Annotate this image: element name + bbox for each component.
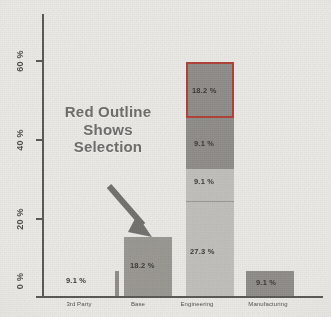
bar-label-base-1: 18.2 % (130, 261, 155, 270)
x-axis-label-base: Base (110, 301, 166, 307)
y-axis-label-0: 0 % (15, 265, 25, 297)
bar-label-engineering-4: 27.3 % (190, 247, 215, 256)
bar-3rd-party-segment-1[interactable] (115, 271, 119, 296)
bar-label-engineering-1: 18.2 % (192, 86, 217, 95)
y-axis-tick (36, 218, 43, 220)
y-axis-label-20: 20 % (15, 203, 25, 235)
bar-label-engineering-2: 9.1 % (194, 139, 214, 148)
callout-line-2: Shows (44, 121, 172, 139)
x-axis-label-manufacturing: Manufacturing (230, 301, 306, 307)
y-axis-tick (36, 296, 43, 298)
x-axis-label-3rd-party: 3rd Party (50, 301, 108, 307)
bar-label-engineering-3: 9.1 % (194, 177, 214, 186)
x-axis-line (42, 296, 323, 298)
callout-line-1: Red Outline (44, 103, 172, 121)
bar-engineering-divider (186, 201, 234, 202)
y-axis-tick (36, 139, 43, 141)
callout-line-3: Selection (44, 138, 172, 156)
down-right-arrow-icon (104, 182, 164, 244)
bar-label-manufacturing-1: 9.1 % (256, 278, 276, 287)
y-axis-label-40: 40 % (15, 124, 25, 156)
x-axis-label-engineering: Engineering (166, 301, 228, 307)
y-axis-label-60: 60 % (15, 45, 25, 77)
bar-label-3rd-party-1: 9.1 % (66, 276, 86, 285)
chart-screenshot: 60 % 40 % 20 % 0 % 3rd Party Base Engine… (0, 0, 331, 317)
selection-callout: Red Outline Shows Selection (44, 103, 172, 156)
y-axis-tick (36, 60, 43, 62)
plot-area: 60 % 40 % 20 % 0 % 3rd Party Base Engine… (0, 0, 331, 317)
